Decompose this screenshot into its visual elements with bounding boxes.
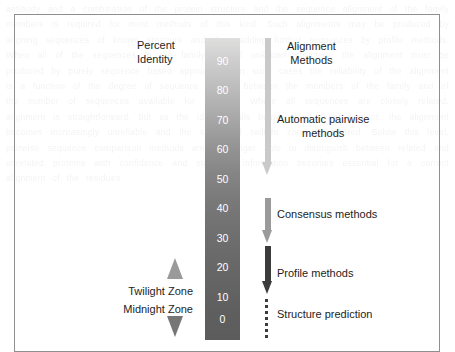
scale-tick-60: 60 xyxy=(205,144,240,155)
arrow-shaft xyxy=(265,198,271,231)
scale-tick-100: 100 xyxy=(205,26,240,37)
arrow-head-down-icon xyxy=(262,281,272,294)
method-label-structure-prediction: Structure prediction xyxy=(277,308,372,322)
method-label-consensus: Consensus methods xyxy=(277,208,377,222)
scale-tick-50: 50 xyxy=(205,174,240,185)
method-label-automatic-pairwise: Automatic pairwise methods xyxy=(277,113,369,140)
percent-identity-title-line2: Identity xyxy=(137,53,175,67)
arrow-head-down-icon xyxy=(262,162,272,175)
profile-arrow xyxy=(262,246,273,294)
alignment-methods-title: Alignment Methods xyxy=(287,40,336,67)
method-label-line2: methods xyxy=(277,127,369,141)
alignment-methods-title-line2: Methods xyxy=(287,54,336,68)
twilight-zone-label: Twilight Zone xyxy=(103,285,193,298)
scale-tick-10: 10 xyxy=(205,292,240,303)
percent-identity-title-line1: Percent xyxy=(137,39,175,53)
percent-identity-title: Percent Identity xyxy=(137,39,175,66)
arrow-head-down-icon xyxy=(262,230,272,243)
arrow-shaft xyxy=(265,246,271,282)
scale-tick-70: 70 xyxy=(205,115,240,126)
scale-tick-80: 80 xyxy=(205,85,240,96)
twilight-zone-up-triangle-icon xyxy=(167,258,183,279)
midnight-zone-down-triangle-icon xyxy=(167,316,183,337)
method-label-line1: Automatic pairwise xyxy=(277,113,369,127)
structure-prediction-dotted-line xyxy=(265,299,268,341)
arrow-shaft xyxy=(265,38,271,163)
automatic-pairwise-arrow xyxy=(262,38,273,175)
figure-frame: 100 90 80 70 60 50 40 30 20 10 0 Percent… xyxy=(14,14,440,352)
scale-tick-90: 90 xyxy=(205,56,240,67)
alignment-methods-title-line1: Alignment xyxy=(287,40,336,54)
method-label-profile: Profile methods xyxy=(277,267,353,281)
scale-tick-20: 20 xyxy=(205,262,240,273)
scale-tick-0: 0 xyxy=(205,314,240,325)
scale-tick-30: 30 xyxy=(205,233,240,244)
scale-tick-40: 40 xyxy=(205,203,240,214)
midnight-zone-label: Midnight Zone xyxy=(103,303,193,316)
consensus-arrow xyxy=(262,198,273,243)
